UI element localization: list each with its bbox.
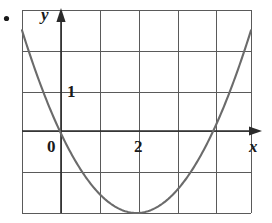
origin-tick-label: 0 bbox=[47, 138, 56, 155]
canvas-background bbox=[0, 0, 272, 223]
bullet-marker-icon bbox=[4, 16, 9, 21]
x-axis-label: x bbox=[249, 138, 258, 155]
graph-canvas bbox=[0, 0, 272, 223]
x-tick-label-two: 2 bbox=[134, 138, 143, 155]
parabola-figure: y x 1 0 2 bbox=[0, 0, 272, 223]
y-tick-label-one: 1 bbox=[67, 83, 76, 100]
y-axis-label: y bbox=[41, 6, 49, 23]
